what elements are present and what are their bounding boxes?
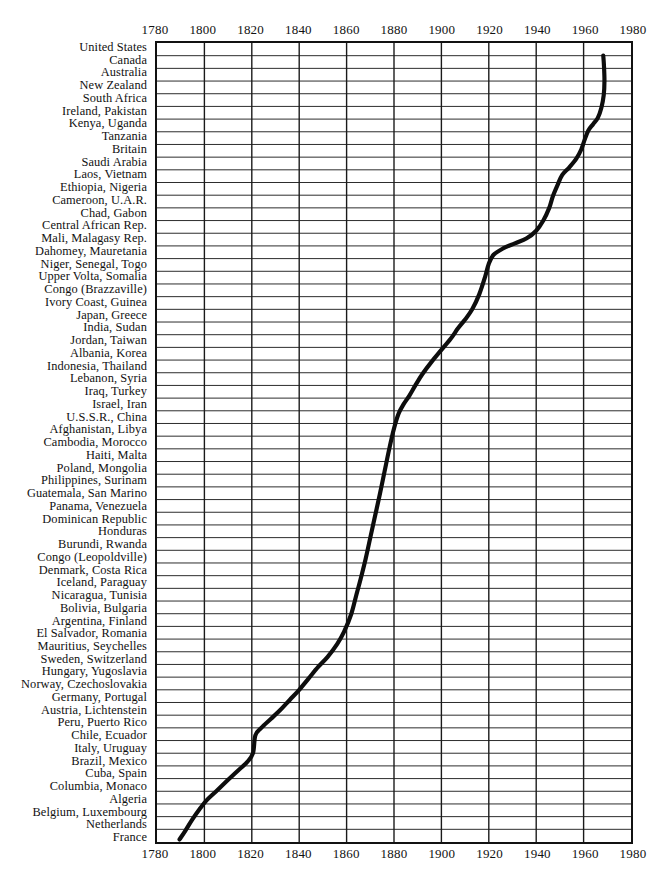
diffusion-curve [157, 43, 631, 842]
xaxis-top-tick-1940: 1940 [524, 22, 551, 38]
xaxis-bottom-tick-1900: 1900 [428, 846, 455, 862]
xaxis-bottom-tick-1880: 1880 [381, 846, 408, 862]
category-label-column: United StatesCanadaAustraliaNew ZealandS… [0, 41, 151, 844]
xaxis-top-tick-1840: 1840 [285, 22, 312, 38]
x-axis-top: 1780180018201840186018801900192019401960… [0, 22, 664, 40]
xaxis-bottom-tick-1980: 1980 [620, 846, 647, 862]
xaxis-bottom-tick-1840: 1840 [285, 846, 312, 862]
xaxis-bottom-tick-1920: 1920 [476, 846, 503, 862]
xaxis-bottom-tick-1940: 1940 [524, 846, 551, 862]
xaxis-top-tick-1880: 1880 [381, 22, 408, 38]
xaxis-bottom-tick-1960: 1960 [572, 846, 599, 862]
xaxis-top-tick-1780: 1780 [142, 22, 169, 38]
xaxis-bottom-tick-1780: 1780 [142, 846, 169, 862]
xaxis-bottom-tick-1800: 1800 [189, 846, 216, 862]
xaxis-top-tick-1980: 1980 [620, 22, 647, 38]
plot-area [155, 41, 633, 844]
curve-path [180, 56, 605, 840]
xaxis-top-tick-1860: 1860 [333, 22, 360, 38]
chart-page: 1780180018201840186018801900192019401960… [0, 0, 664, 896]
xaxis-top-tick-1800: 1800 [189, 22, 216, 38]
x-axis-bottom: 1780180018201840186018801900192019401960… [0, 846, 664, 864]
xaxis-bottom-tick-1820: 1820 [237, 846, 264, 862]
xaxis-top-tick-1820: 1820 [237, 22, 264, 38]
xaxis-top-tick-1920: 1920 [476, 22, 503, 38]
xaxis-bottom-tick-1860: 1860 [333, 846, 360, 862]
xaxis-top-tick-1900: 1900 [428, 22, 455, 38]
xaxis-top-tick-1960: 1960 [572, 22, 599, 38]
row-label: France [0, 830, 147, 844]
page-title [0, 0, 664, 12]
